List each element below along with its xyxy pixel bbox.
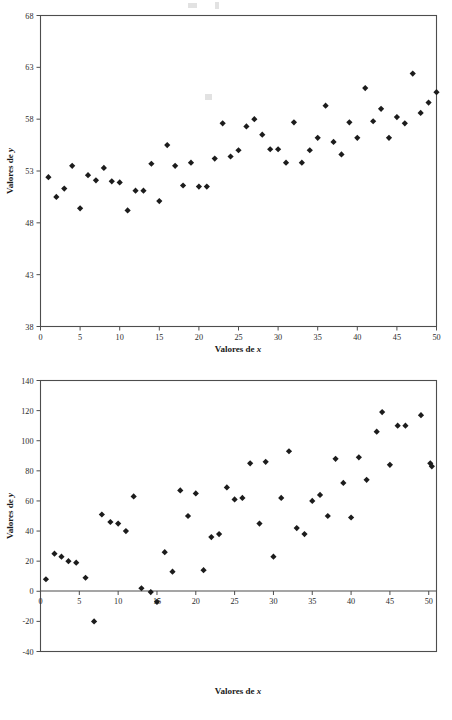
- data-point-marker: [51, 551, 57, 557]
- data-point-marker: [61, 186, 67, 192]
- data-point-marker: [291, 119, 297, 125]
- data-point-marker: [148, 589, 154, 595]
- data-point-marker: [131, 493, 137, 499]
- data-point-marker: [395, 423, 401, 429]
- data-point-marker: [340, 480, 346, 486]
- x-tick-label: 15: [155, 333, 163, 342]
- x-tick-label: 30: [274, 333, 282, 342]
- data-point-marker: [410, 70, 416, 76]
- y-tick-label: 58: [25, 115, 33, 124]
- data-point-marker: [330, 139, 336, 145]
- data-point-marker: [69, 163, 75, 169]
- y-tick-label: 43: [25, 271, 33, 280]
- data-point-marker: [85, 172, 91, 178]
- data-point-marker: [148, 161, 154, 167]
- y-tick-label: 38: [25, 323, 33, 332]
- y-tick-label: 53: [25, 167, 33, 176]
- data-points-bottom: [43, 409, 435, 624]
- data-point-marker: [91, 618, 97, 624]
- data-point-marker: [374, 429, 380, 435]
- data-point-marker: [138, 585, 144, 591]
- data-point-marker: [93, 177, 99, 183]
- data-point-marker: [208, 534, 214, 540]
- data-point-marker: [180, 182, 186, 188]
- data-point-marker: [156, 198, 162, 204]
- data-point-marker: [394, 114, 400, 120]
- scatter-svg-bottom: 05101520253035404550-40-2002040608010012…: [0, 360, 452, 720]
- x-tick-label: 5: [77, 597, 81, 606]
- data-point-marker: [275, 146, 281, 152]
- x-tick-label: 40: [353, 333, 361, 342]
- data-point-marker: [418, 110, 424, 116]
- y-tick-label: 140: [21, 377, 33, 386]
- y-tick-label: 60: [25, 497, 33, 506]
- x-tick-label: 0: [38, 597, 42, 606]
- data-point-marker: [220, 120, 226, 126]
- y-tick-label: 80: [25, 467, 33, 476]
- data-point-marker: [115, 520, 121, 526]
- data-point-marker: [162, 549, 168, 555]
- data-point-marker: [125, 207, 131, 213]
- x-tick-label: 50: [432, 333, 440, 342]
- y-tick-label: 68: [25, 12, 33, 21]
- data-point-marker: [185, 513, 191, 519]
- data-point-marker: [402, 120, 408, 126]
- data-point-marker: [196, 183, 202, 189]
- data-point-marker: [77, 205, 83, 211]
- plot-area-bottom: 05101520253035404550-40-2002040608010012…: [0, 360, 452, 720]
- y-tick-label: 63: [25, 63, 33, 72]
- data-point-marker: [193, 490, 199, 496]
- x-tick-label: 30: [269, 597, 277, 606]
- data-point-marker: [263, 459, 269, 465]
- data-point-marker: [356, 454, 362, 460]
- data-point-marker: [132, 188, 138, 194]
- data-point-marker: [425, 99, 431, 105]
- data-point-marker: [251, 116, 257, 122]
- data-point-marker: [370, 118, 376, 124]
- data-point-marker: [232, 496, 238, 502]
- axis-ticks-bottom: 05101520253035404550-40-2002040608010012…: [21, 377, 433, 657]
- x-tick-label: 40: [347, 597, 355, 606]
- data-point-marker: [348, 514, 354, 520]
- data-point-marker: [216, 531, 222, 537]
- data-point-marker: [294, 525, 300, 531]
- data-point-marker: [301, 531, 307, 537]
- data-point-marker: [65, 558, 71, 564]
- data-point-marker: [378, 106, 384, 112]
- data-point-marker: [235, 147, 241, 153]
- data-point-marker: [82, 575, 88, 581]
- data-point-marker: [325, 513, 331, 519]
- data-point-marker: [433, 89, 439, 95]
- data-point-marker: [247, 460, 253, 466]
- x-axis-title-top: Valores de x: [215, 344, 262, 354]
- data-point-marker: [402, 423, 408, 429]
- x-tick-label: 5: [78, 333, 82, 342]
- x-tick-label: 10: [116, 333, 124, 342]
- plot-frame-bottom: [41, 381, 437, 652]
- data-point-marker: [243, 123, 249, 129]
- data-point-marker: [58, 554, 64, 560]
- data-point-marker: [259, 132, 265, 138]
- data-point-marker: [53, 194, 59, 200]
- scatter-figure-bottom: 05101520253035404550-40-2002040608010012…: [0, 360, 452, 720]
- x-tick-label: 0: [38, 333, 42, 342]
- data-point-marker: [346, 119, 352, 125]
- x-tick-label: 20: [195, 333, 203, 342]
- data-point-marker: [99, 511, 105, 517]
- data-point-marker: [354, 135, 360, 141]
- data-point-marker: [224, 484, 230, 490]
- data-point-marker: [286, 448, 292, 454]
- data-point-marker: [418, 412, 424, 418]
- y-tick-label: 40: [25, 527, 33, 536]
- data-point-marker: [364, 477, 370, 483]
- x-tick-label: 35: [308, 597, 316, 606]
- figure-page: 0510152025303540455038434853586368 Valor…: [0, 0, 452, 720]
- y-tick-label: 48: [25, 219, 33, 228]
- data-point-marker: [332, 456, 338, 462]
- data-point-marker: [362, 85, 368, 91]
- y-axis-title-bottom: Valores de y: [5, 492, 15, 539]
- x-tick-label: 35: [314, 333, 322, 342]
- data-point-marker: [212, 155, 218, 161]
- y-tick-label: 120: [21, 407, 33, 416]
- data-point-marker: [73, 560, 79, 566]
